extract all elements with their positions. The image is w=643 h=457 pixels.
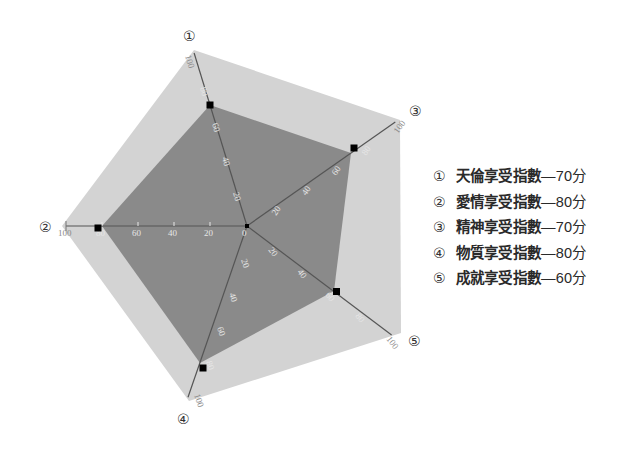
marker-axis-3 [351, 145, 358, 152]
legend-label: 物質享受指數 [456, 244, 541, 261]
legend-item: ⑤ 成就享受指數—60分 [433, 265, 586, 291]
axis-marker-4: ④ [177, 411, 190, 427]
svg-text:40: 40 [168, 228, 178, 238]
axis-marker-2: ② [39, 219, 52, 235]
svg-text:0: 0 [242, 228, 247, 238]
legend-score: —60分 [541, 270, 586, 286]
axis-marker-1: ① [183, 28, 196, 44]
legend-item: ① 天倫享受指數—70分 [433, 163, 586, 189]
axis-marker-5: ⑤ [408, 333, 421, 349]
legend-score: —70分 [541, 219, 586, 235]
legend-number: ① [433, 164, 451, 190]
svg-text:100: 100 [58, 228, 72, 238]
marker-axis-5 [333, 288, 340, 295]
marker-axis-1 [207, 102, 214, 109]
legend-label: 成就享受指數 [456, 269, 541, 286]
legend-item: ③ 精神享受指數—70分 [433, 214, 586, 240]
legend-score: —70分 [541, 168, 586, 184]
legend-label: 愛情享受指數 [456, 193, 541, 210]
legend-score: —80分 [541, 194, 586, 210]
marker-axis-2 [95, 225, 102, 232]
axis-marker-3: ③ [409, 103, 422, 119]
legend-label: 精神享受指數 [456, 218, 541, 235]
legend-number: ④ [433, 241, 451, 267]
legend-label: 天倫享受指數 [456, 167, 541, 184]
legend-score: —80分 [541, 245, 586, 261]
legend-number: ⑤ [433, 266, 451, 292]
legend-number: ③ [433, 215, 451, 241]
marker-axis-4 [200, 365, 207, 372]
svg-text:20: 20 [204, 228, 214, 238]
center-point [245, 224, 249, 228]
legend-item: ② 愛情享受指數—80分 [433, 189, 586, 215]
legend-item: ④ 物質享受指數—80分 [433, 240, 586, 266]
svg-text:60: 60 [132, 228, 142, 238]
legend-number: ② [433, 190, 451, 216]
legend: ① 天倫享受指數—70分 ② 愛情享受指數—80分 ③ 精神享受指數—70分 ④… [433, 163, 586, 291]
